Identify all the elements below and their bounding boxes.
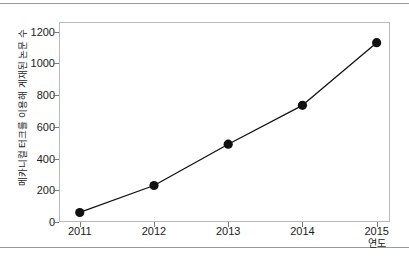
x-tick-label: 2014 <box>272 226 332 237</box>
y-tick-mark <box>53 222 59 223</box>
data-point-marker <box>372 38 381 47</box>
page-top-rule <box>0 3 409 4</box>
x-tick-mark <box>80 222 81 227</box>
y-axis-title: 메카니컬 터크를 이용해 게재된 논문 수 <box>18 13 28 203</box>
series-line <box>80 43 377 213</box>
x-tick-mark <box>377 222 378 227</box>
plot-area <box>59 22 390 222</box>
y-tick-label: 200 <box>11 185 55 196</box>
y-tick-label: 400 <box>11 153 55 164</box>
x-axis-title: 연도 <box>347 239 407 249</box>
data-point-marker <box>224 140 233 149</box>
x-tick-mark <box>154 222 155 227</box>
line-series <box>60 23 389 221</box>
figure-page: 메카니컬 터크를 이용해 게재된 논문 수 020040060080010001… <box>0 0 409 259</box>
chart-figure: 메카니컬 터크를 이용해 게재된 논문 수 020040060080010001… <box>0 8 409 244</box>
y-tick-label: 0 <box>11 217 55 228</box>
x-tick-label: 2012 <box>124 226 184 237</box>
y-tick-label: 600 <box>11 121 55 132</box>
x-tick-label: 2013 <box>198 226 258 237</box>
y-tick-label: 1000 <box>11 58 55 69</box>
x-tick-label: 2015 <box>347 226 407 237</box>
x-tick-mark <box>302 222 303 227</box>
y-tick-label: 1200 <box>11 26 55 37</box>
plot-inner <box>60 23 389 221</box>
data-point-marker <box>149 181 158 190</box>
data-point-marker <box>75 208 84 217</box>
x-tick-label: 2011 <box>50 226 110 237</box>
x-tick-mark <box>228 222 229 227</box>
y-tick-label: 800 <box>11 90 55 101</box>
data-point-marker <box>298 101 307 110</box>
